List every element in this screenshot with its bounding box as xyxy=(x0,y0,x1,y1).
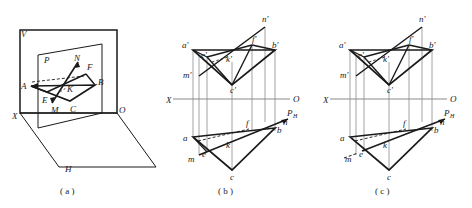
point-n-prime-label-b: n' xyxy=(262,14,270,24)
axis-x-label-a: X xyxy=(11,111,18,121)
point-n-label-c: n xyxy=(440,117,445,127)
caption-b: ( b ) xyxy=(218,186,233,196)
point-c-label-b: c xyxy=(230,172,234,182)
plane-p-label: P xyxy=(43,55,50,65)
plane-h-label: H xyxy=(64,164,72,174)
point-m-prime-label-c: m' xyxy=(340,70,349,80)
point-n-prime-label-c: n' xyxy=(419,14,427,24)
axis-o-label-b: O xyxy=(293,94,300,104)
point-m-label-c: m xyxy=(345,154,352,164)
point-b-label-b: b xyxy=(277,125,282,135)
point-b-prime-label-c: b' xyxy=(429,40,437,50)
point-e-label-a: E xyxy=(41,95,48,105)
trace-ph-subscript-b: H xyxy=(292,113,298,119)
point-m-label-b: m xyxy=(188,154,195,164)
trace-ph-label-b: P xyxy=(286,108,293,118)
figure-container: V H P X O A B C E F K M N ( a ) xyxy=(0,0,472,208)
point-a-prime-label-b: a' xyxy=(182,40,190,50)
descriptive-geometry-figure: V H P X O A B C E F K M N ( a ) xyxy=(0,0,472,208)
point-a-label-a: A xyxy=(20,81,27,91)
point-b-prime-label-b: b' xyxy=(272,40,280,50)
axis-o-label-c: O xyxy=(450,94,457,104)
caption-c: ( c ) xyxy=(375,186,390,196)
caption-a: ( a ) xyxy=(60,186,75,196)
point-b-label-a: B xyxy=(98,77,104,87)
point-a-prime-label-c: a' xyxy=(339,40,347,50)
point-c-label-c: c xyxy=(387,172,391,182)
point-a-label-c: a xyxy=(340,133,345,143)
point-b-label-c: b xyxy=(434,125,439,135)
axis-x-label-b: X xyxy=(165,95,172,105)
point-f-label-a: F xyxy=(86,62,93,72)
point-m-prime-label-b: m' xyxy=(183,70,192,80)
point-e-label-b: e xyxy=(202,149,206,159)
trace-ph-label-c: P xyxy=(443,108,450,118)
trace-ph-subscript-c: H xyxy=(449,113,455,119)
point-e-label-c: e xyxy=(359,149,363,159)
axis-o-label-a: O xyxy=(119,105,126,115)
point-a-label-b: a xyxy=(183,133,188,143)
axis-x-label-c: X xyxy=(322,95,329,105)
point-k-label-a: K xyxy=(66,84,74,94)
point-c-label-a: C xyxy=(70,104,77,114)
point-m-label-a: M xyxy=(50,105,59,115)
point-n-label-a: N xyxy=(73,53,81,63)
point-n-label-b: n xyxy=(283,117,288,127)
